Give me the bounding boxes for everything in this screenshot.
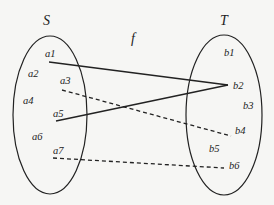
set-t-label: T — [220, 13, 229, 28]
mapping-a1-b2 — [49, 62, 228, 85]
set-s-ellipse — [13, 36, 87, 194]
element-b2: b2 — [233, 80, 244, 91]
element-b5: b5 — [209, 143, 220, 154]
diagram-svg: S T f a1 a2 a3 a4 a5 a6 a7 b1 b2 b3 b4 b… — [0, 0, 274, 205]
element-b6: b6 — [229, 160, 240, 171]
element-a3: a3 — [60, 75, 71, 86]
set-s-label: S — [43, 13, 50, 28]
element-a2: a2 — [28, 68, 39, 79]
set-t-ellipse — [186, 35, 262, 195]
mapping-diagram: S T f a1 a2 a3 a4 a5 a6 a7 b1 b2 b3 b4 b… — [0, 0, 274, 205]
element-a4: a4 — [23, 95, 34, 106]
element-a6: a6 — [32, 131, 43, 142]
element-a1: a1 — [45, 48, 56, 59]
element-a5: a5 — [53, 108, 64, 119]
mapping-a5-b2 — [56, 85, 228, 121]
element-a7: a7 — [53, 145, 64, 156]
element-b3: b3 — [243, 100, 254, 111]
element-b4: b4 — [235, 125, 246, 136]
function-label: f — [131, 31, 137, 46]
element-b1: b1 — [224, 47, 235, 58]
